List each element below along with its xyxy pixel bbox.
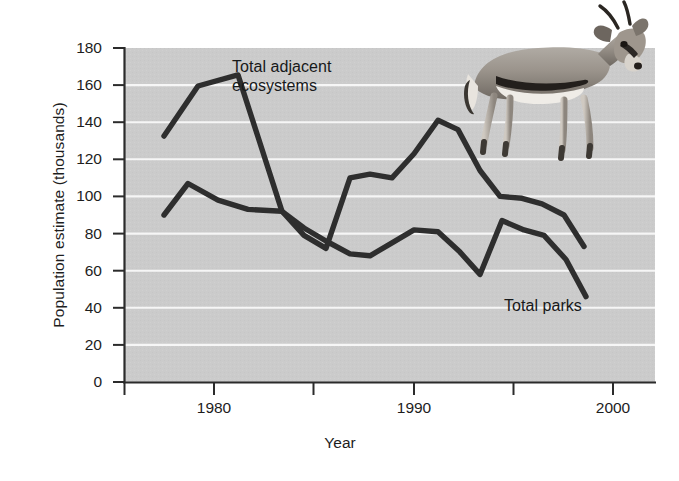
x-tick-1980: 1980 [197,399,231,417]
plot-area [124,48,655,382]
x-axis-ticks [125,382,614,395]
y-axis-ticks [113,48,124,382]
series-annotation-total-adjacent-ecosystems: Total adjacent ecosystems [232,58,331,96]
x-tick-1990: 1990 [397,399,431,417]
series-annotation-total-parks: Total parks [504,297,582,316]
x-tick-2000: 2000 [596,399,630,417]
y-tick-180: 180 [40,39,102,57]
y-axis-title: Population estimate (thousands) [50,60,68,370]
chart-figure: 180 160 140 120 100 80 60 40 20 0 1980 1… [0,0,679,481]
y-tick-0: 0 [40,373,102,391]
x-axis-title: Year [324,434,356,452]
